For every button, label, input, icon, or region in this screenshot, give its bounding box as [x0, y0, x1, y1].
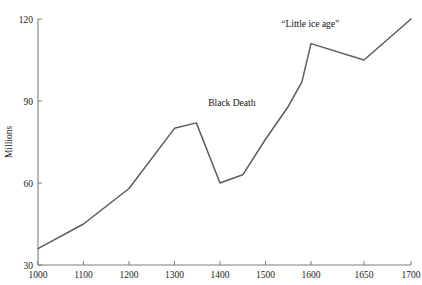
y-tick-label: 90: [24, 97, 34, 107]
x-tick-label: 1700: [402, 270, 421, 280]
x-axis-ticks: [38, 261, 411, 265]
x-axis-tick-labels: 100011001200130014001500160016501700: [29, 270, 421, 280]
x-tick-label: 1500: [256, 270, 275, 280]
x-tick-label: 1100: [74, 270, 93, 280]
y-tick-label: 120: [19, 15, 34, 25]
population-line-chart: 100011001200130014001500160016501700 306…: [0, 0, 422, 285]
x-tick-label: 1650: [355, 270, 374, 280]
y-axis-title: Millions: [4, 126, 14, 159]
data-series-group: [38, 19, 411, 249]
x-tick-label: 1400: [211, 270, 230, 280]
chart-annotations: Black Death“Little ice age”: [208, 19, 339, 108]
y-tick-label: 30: [24, 261, 34, 271]
chart-annotation-label: “Little ice age”: [281, 19, 339, 29]
x-tick-label: 1300: [165, 270, 184, 280]
y-axis-ticks: [38, 19, 42, 265]
data-series-line: [38, 19, 411, 249]
y-axis-tick-labels: 306090120: [19, 15, 34, 271]
y-tick-label: 60: [24, 179, 34, 189]
axes-group: [38, 19, 411, 265]
chart-annotation-label: Black Death: [208, 98, 255, 108]
x-tick-label: 1600: [302, 270, 321, 280]
x-tick-label: 1000: [29, 270, 48, 280]
chart-canvas: 100011001200130014001500160016501700 306…: [0, 0, 422, 285]
x-tick-label: 1200: [120, 270, 139, 280]
